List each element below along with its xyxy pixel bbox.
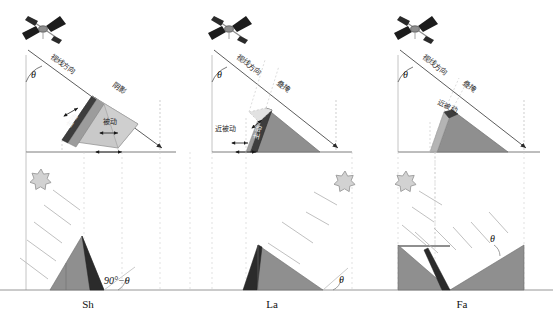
panel-label-fa: Fa — [457, 298, 468, 310]
passive-label: 被动 — [103, 117, 117, 126]
incidence-angle-label: θ — [403, 69, 408, 80]
terrain-plateau-left — [398, 245, 450, 247]
slope-angle-label: θ — [339, 274, 344, 285]
panel-label-la: La — [266, 298, 278, 310]
diagram-canvas: θ 视线方向 阴影 主动 被动 — [0, 0, 553, 317]
slope-angle-label: θ — [490, 233, 495, 244]
sar-distortion-diagram: θ 视线方向 阴影 主动 被动 — [0, 0, 553, 317]
slope-angle-label: 90°−θ — [104, 275, 130, 286]
incidence-angle-label: θ — [217, 69, 222, 80]
incidence-angle-label: θ — [31, 69, 36, 80]
panel-label-sh: Sh — [82, 298, 94, 310]
near-passive-label: 近被动 — [215, 124, 236, 133]
